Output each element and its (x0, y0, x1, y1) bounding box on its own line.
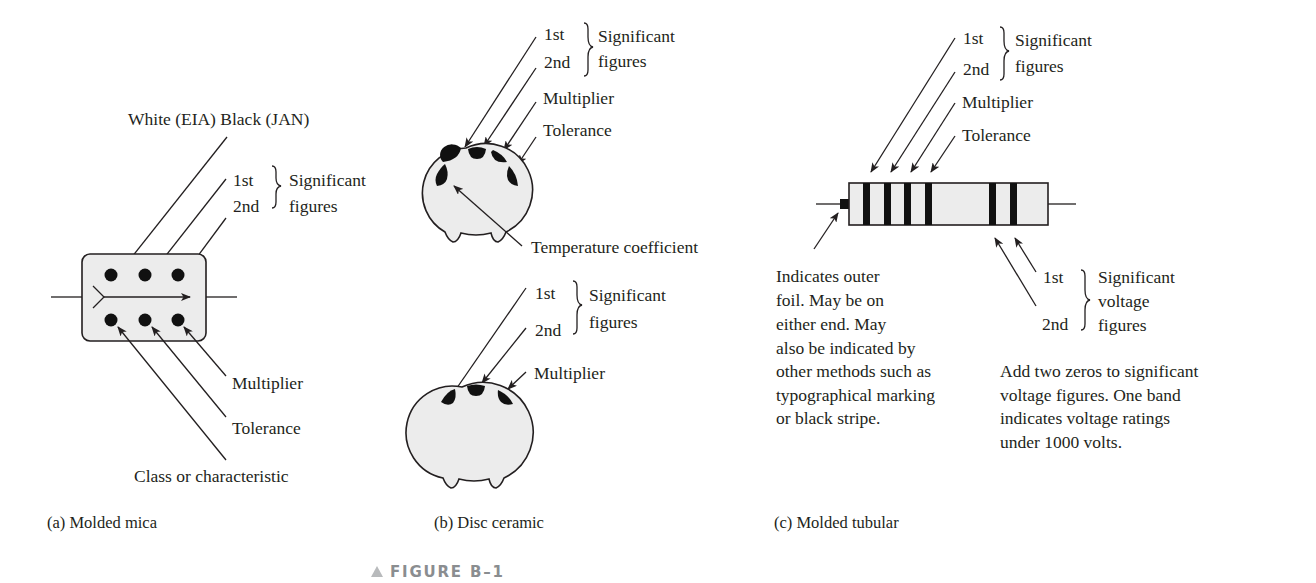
color-band (904, 183, 911, 225)
note-line: under 1000 volts. (1000, 432, 1122, 452)
arrow-icon (911, 103, 955, 172)
color-dot (105, 314, 118, 327)
arrow-icon (120, 137, 227, 272)
note-line: Add two zeros to significant (1000, 361, 1198, 381)
label-significant: Significant (589, 285, 666, 305)
label-significant: Significant (289, 170, 366, 190)
label-tolerance: Tolerance (232, 418, 301, 438)
note-line: foil. May be on (776, 290, 884, 310)
brace-icon (584, 23, 593, 76)
caption-molded-mica: (a) Molded mica (47, 513, 158, 532)
arrow-icon (508, 372, 526, 389)
panel-molded-tubular: 1st 2nd Significant figures Multiplier T… (774, 27, 1198, 532)
color-dot (172, 269, 185, 282)
label-2nd: 2nd (233, 196, 260, 216)
arrow-icon (814, 213, 838, 249)
note-line: Indicates outer (776, 266, 880, 286)
outer-foil-note: Indicates outer foil. May be on either e… (776, 266, 935, 428)
arrow-icon (931, 136, 955, 172)
label-multiplier: Multiplier (534, 363, 605, 383)
outer-foil-marker (840, 199, 849, 209)
tubular-capacitor-body (849, 183, 1048, 225)
note-line: typographical marking (776, 385, 935, 405)
arrow-icon (871, 38, 955, 172)
voltage-note: Add two zeros to significant voltage fig… (1000, 361, 1198, 452)
label-1st: 1st (544, 24, 565, 44)
label-multiplier: Multiplier (232, 373, 303, 393)
label-2nd: 2nd (963, 59, 990, 79)
label-1st: 1st (1043, 267, 1064, 287)
note-line: voltage figures. One band (1000, 385, 1181, 405)
panel-molded-mica: White (EIA) Black (JAN) 1st 2nd Signific… (47, 109, 366, 532)
color-dot (172, 314, 185, 327)
label-significant: Significant (1098, 267, 1175, 287)
note-line: also be indicated by (776, 338, 916, 358)
label-figures: figures (589, 312, 638, 332)
figure-number: FIGURE B–1 (390, 563, 505, 581)
label-multiplier: Multiplier (962, 92, 1033, 112)
panel-disc-ceramic: 1st 2nd Significant figures Multiplier T… (406, 23, 698, 532)
label-2nd: 2nd (1042, 314, 1069, 334)
color-dot (105, 269, 118, 282)
label-significant: Significant (598, 26, 675, 46)
color-band (863, 183, 870, 225)
arrow-icon (995, 238, 1036, 306)
brace-icon (1081, 270, 1090, 330)
color-dot (139, 314, 152, 327)
note-line: or black stripe. (776, 408, 880, 428)
color-band (884, 183, 891, 225)
arrow-icon (484, 68, 536, 146)
figure-label: FIGURE B–1 (371, 563, 505, 581)
label-2nd: 2nd (535, 320, 562, 340)
brace-icon (272, 166, 281, 208)
label-1st: 1st (963, 28, 984, 48)
caption-molded-tubular: (c) Molded tubular (774, 513, 899, 532)
label-figures: figures (1015, 56, 1064, 76)
color-band (925, 183, 932, 225)
label-voltage: voltage (1098, 291, 1150, 311)
label-1st: 1st (233, 170, 254, 190)
label-tolerance: Tolerance (962, 125, 1031, 145)
label-multiplier: Multiplier (543, 88, 614, 108)
label-figures: figures (598, 51, 647, 71)
triangle-up-icon (371, 566, 383, 577)
brace-icon (1000, 27, 1009, 80)
arrow-icon (465, 37, 536, 147)
arrow-icon (482, 328, 526, 383)
label-figures: figures (1098, 315, 1147, 335)
note-line: indicates voltage ratings (1000, 408, 1170, 428)
caption-disc-ceramic: (b) Disc ceramic (434, 513, 544, 532)
label-temperature-coefficient: Temperature coefficient (531, 237, 698, 257)
arrow-icon (891, 72, 955, 172)
arrow-icon (118, 327, 226, 460)
label-2nd: 2nd (544, 52, 571, 72)
capacitor-color-code-diagram: White (EIA) Black (JAN) 1st 2nd Signific… (0, 0, 1316, 583)
label-1st: 1st (535, 283, 556, 303)
label-figures: figures (289, 196, 338, 216)
ceramic-disc-body (406, 382, 533, 488)
note-line: either end. May (776, 314, 887, 334)
label-white-eia-black-jan: White (EIA) Black (JAN) (128, 109, 309, 129)
label-class-or-characteristic: Class or characteristic (134, 466, 289, 486)
note-line: other methods such as (776, 361, 931, 381)
label-significant: Significant (1015, 30, 1092, 50)
label-tolerance: Tolerance (543, 120, 612, 140)
color-band (1010, 183, 1017, 225)
color-dot (139, 269, 152, 282)
arrow-icon (1015, 238, 1036, 272)
brace-icon (573, 281, 582, 334)
color-band (989, 183, 996, 225)
